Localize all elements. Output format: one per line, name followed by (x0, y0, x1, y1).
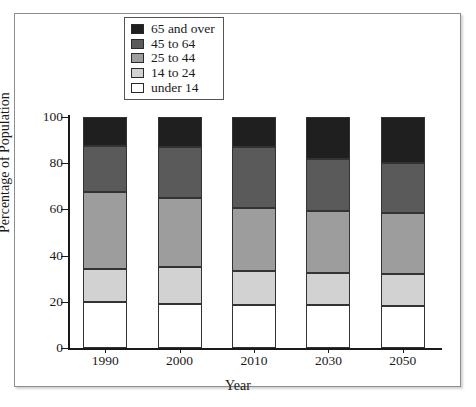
legend-swatch-icon (131, 53, 144, 63)
legend-item-label: 25 to 44 (151, 51, 195, 65)
bar-segment (158, 304, 202, 348)
y-tick-label: 40 (50, 248, 64, 264)
bar-segment (381, 274, 425, 306)
x-tick-label: 2030 (315, 353, 342, 369)
legend-swatch-icon (131, 68, 144, 78)
legend-item-label: 65 and over (151, 22, 215, 36)
legend-swatch-icon (131, 83, 144, 93)
stacked-bar (83, 117, 127, 348)
bar-segment (83, 192, 127, 269)
figure: 65 and over45 to 6425 to 4414 to 24under… (0, 0, 476, 407)
legend-swatch-icon (131, 39, 144, 49)
x-axis-label: Year (0, 378, 476, 394)
bar-segment (306, 273, 350, 305)
legend-item-label: under 14 (151, 81, 199, 95)
legend-item: under 14 (131, 80, 215, 95)
bar-segment (381, 213, 425, 274)
bar-segment (381, 163, 425, 213)
x-tick-label: 1990 (92, 353, 119, 369)
legend-item: 65 and over (131, 22, 215, 37)
bar-segment (306, 117, 350, 159)
x-tick-label: 2000 (166, 353, 193, 369)
bar-segment (83, 302, 127, 348)
bar-segment (381, 117, 425, 163)
bar-segment (158, 267, 202, 304)
bar-segment (232, 271, 276, 306)
legend-item: 45 to 64 (131, 37, 215, 52)
legend-swatch-icon (131, 24, 144, 34)
bar-segment (306, 159, 350, 211)
bar-segment (158, 117, 202, 147)
bar-segment (232, 208, 276, 270)
bar-segment (83, 269, 127, 301)
x-tick-label: 2050 (389, 353, 416, 369)
y-axis-label: Percentage of Population (0, 92, 13, 233)
bar-segment (83, 146, 127, 192)
stacked-bar (158, 117, 202, 348)
y-tick-label: 60 (50, 201, 64, 217)
legend-item: 25 to 44 (131, 51, 215, 66)
bar-segment (232, 147, 276, 208)
plot-area: 020406080100 (68, 117, 440, 348)
y-tick-label: 100 (43, 109, 63, 125)
stacked-bar (381, 117, 425, 348)
legend-item: 14 to 24 (131, 66, 215, 81)
y-tick-label: 20 (50, 294, 64, 310)
legend-item-label: 14 to 24 (151, 66, 195, 80)
stacked-bar (232, 117, 276, 348)
bar-segment (232, 117, 276, 147)
bar-segment (83, 117, 127, 146)
chart-legend: 65 and over45 to 6425 to 4414 to 24under… (124, 17, 224, 100)
bar-segment (306, 305, 350, 348)
bar-segment (232, 305, 276, 348)
x-tick-label: 2010 (241, 353, 268, 369)
legend-item-label: 45 to 64 (151, 37, 195, 51)
bar-segment (306, 211, 350, 273)
x-axis-line (68, 348, 442, 350)
bar-segment (381, 306, 425, 348)
bar-segment (158, 198, 202, 267)
y-tick-label: 80 (50, 155, 64, 171)
y-tick-label: 0 (56, 340, 63, 356)
bar-segment (158, 147, 202, 198)
stacked-bar (306, 117, 350, 348)
